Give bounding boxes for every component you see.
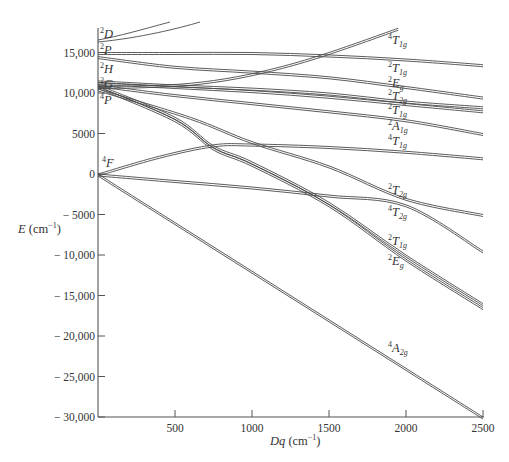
energy-curve — [98, 85, 483, 304]
y-tick-label: 0 — [89, 168, 95, 180]
term-symbol-label: 4T1g — [388, 32, 407, 49]
y-tick-label: − 10,000 — [54, 249, 95, 262]
energy-level-diagram: 5001000150020002500 15,00010,00050000− 5… — [0, 0, 509, 462]
energy-curve-companion — [98, 87, 483, 306]
free-ion-term-labels: 2D2P2H2G4P4F — [100, 26, 114, 170]
term-symbol-label: 2T2g — [388, 182, 407, 199]
term-symbol-label: 4A2g — [388, 340, 408, 357]
energy-curve — [98, 174, 483, 417]
y-ticks: 15,00010,00050000− 5000− 10,000− 15,000−… — [54, 47, 105, 425]
free-ion-term-label: 2H — [100, 61, 114, 76]
free-ion-term-label: 4P — [100, 92, 112, 107]
y-axis-label: E (cm−1) — [17, 221, 61, 236]
free-ion-term-label: 2D — [100, 26, 113, 41]
x-tick-label: 1500 — [318, 422, 341, 434]
y-tick-label: − 30,000 — [54, 411, 95, 424]
x-tick-label: 2500 — [472, 422, 495, 434]
energy-curve — [98, 87, 483, 308]
energy-curve-companion — [98, 176, 483, 419]
y-tick-label: 5000 — [72, 128, 95, 140]
free-ion-term-label: 4F — [102, 155, 114, 170]
energy-curve-companion — [98, 146, 483, 176]
energy-curve-companion — [98, 87, 483, 136]
energy-curves — [98, 22, 483, 419]
energy-curve-companion — [98, 89, 483, 310]
y-tick-label: − 25,000 — [54, 371, 95, 384]
y-tick-label: 10,000 — [63, 87, 95, 100]
y-tick-label: 15,000 — [63, 47, 95, 60]
y-tick-label: − 15,000 — [54, 290, 95, 303]
x-tick-label: 2000 — [395, 422, 418, 434]
x-tick-label: 500 — [166, 422, 184, 434]
energy-curve-2D-b — [98, 22, 200, 42]
y-tick-label: − 5000 — [63, 209, 96, 221]
energy-curve — [98, 28, 398, 86]
term-symbol-label: 4T1g — [388, 133, 407, 150]
x-ticks: 5001000150020002500 — [166, 410, 494, 434]
x-axis-label: Dq (cm−1) — [269, 433, 321, 448]
term-symbol-label: 2T1g — [388, 233, 407, 250]
x-tick-label: 1000 — [241, 422, 264, 434]
y-tick-label: − 20,000 — [54, 330, 95, 343]
